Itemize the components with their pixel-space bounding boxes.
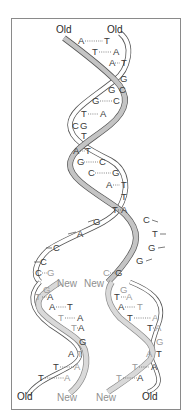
base: C	[119, 84, 126, 95]
base: G	[120, 73, 127, 84]
base: A	[126, 291, 133, 302]
base: A	[64, 372, 71, 383]
base: T	[38, 372, 44, 383]
base: G	[156, 336, 163, 347]
base: G	[47, 267, 54, 278]
base: T	[121, 57, 127, 68]
base: T	[81, 108, 87, 119]
base: A	[151, 361, 158, 372]
base: G	[108, 84, 115, 95]
base: T	[127, 312, 133, 323]
parent-base-pairs: A T T A A T G G C G C T A C G T A T G C …	[72, 35, 128, 215]
parent-helix	[36, 33, 136, 282]
bottom-left-new-label: New	[57, 392, 78, 403]
base: G	[93, 216, 100, 227]
base: A	[78, 35, 85, 46]
bottom-right-new-label: New	[96, 392, 117, 403]
base: A	[137, 372, 144, 383]
base: T	[132, 361, 138, 372]
base: T	[71, 322, 77, 333]
base: A	[146, 348, 153, 359]
base: C	[72, 120, 79, 131]
base: T	[77, 348, 83, 359]
base: T	[156, 348, 162, 359]
base: C	[40, 256, 47, 267]
base: A	[73, 145, 80, 156]
base: T	[147, 322, 153, 333]
base: A	[118, 301, 125, 312]
base: T	[92, 46, 98, 57]
base: A	[106, 179, 113, 190]
base: T	[121, 179, 127, 190]
base: A	[49, 301, 56, 312]
fork-right-new-label: New	[84, 278, 105, 289]
base: G	[92, 95, 99, 106]
base: A	[113, 46, 120, 57]
base: T	[121, 191, 127, 202]
base: G	[136, 255, 143, 266]
base: T	[112, 204, 118, 215]
bottom-left-old-label: Old	[17, 391, 33, 402]
base: T	[152, 228, 158, 239]
base: T	[116, 372, 122, 383]
base: T	[58, 312, 64, 323]
base: A	[100, 108, 107, 119]
base: T	[81, 130, 87, 141]
fork-right-unpaired: C T G G	[136, 214, 166, 266]
base: T	[35, 291, 41, 302]
base: G	[79, 336, 86, 347]
base: G	[112, 167, 119, 178]
base: G	[148, 242, 155, 253]
base: C	[113, 95, 120, 106]
base: T	[104, 35, 110, 46]
base: T	[53, 361, 59, 372]
base: G	[77, 156, 84, 167]
base: A	[109, 57, 116, 68]
base: C	[88, 167, 95, 178]
base: A	[77, 228, 84, 239]
base: A	[74, 361, 81, 372]
base: T	[67, 301, 73, 312]
base: A	[78, 322, 85, 333]
base: A	[68, 348, 75, 359]
base: A	[121, 204, 128, 215]
base: T	[85, 145, 91, 156]
base: G	[115, 267, 122, 278]
bottom-right-old-label: Old	[142, 391, 158, 402]
base: C	[103, 267, 110, 278]
top-right-old-label: Old	[107, 24, 123, 35]
dna-replication-diagram: A T T A A T G G C G C T A C G T A T G C …	[0, 0, 191, 420]
base: A	[155, 322, 162, 333]
fork-left-new-label: New	[57, 278, 78, 289]
base: C	[53, 242, 60, 253]
base: T	[137, 301, 143, 312]
base: C	[99, 156, 106, 167]
base: C	[35, 267, 42, 278]
base: C	[143, 214, 150, 225]
top-left-old-label: Old	[56, 24, 72, 35]
